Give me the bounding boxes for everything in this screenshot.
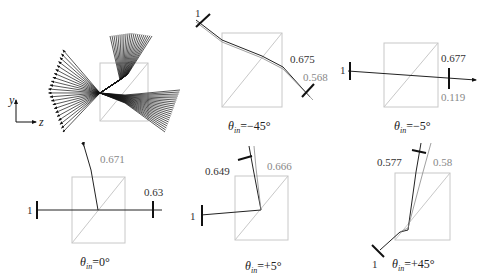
output-intensity-b: 0.119 <box>441 91 466 103</box>
panel-theta-plus-5: 1 0.649 0.666 θin=+5° <box>190 146 292 275</box>
diagram-canvas: y z 1 0.675 0.568 θin=−45° 1 0.677 0.119… <box>0 0 479 275</box>
input-intensity: 1 <box>190 210 196 222</box>
panel-caption: θin=−5° <box>394 119 431 135</box>
output-intensity-a: 0.677 <box>441 52 466 64</box>
input-intensity: 1 <box>372 258 378 270</box>
panel-caption: θin=−45° <box>228 119 271 135</box>
panel-caption: θin=+45° <box>392 257 435 273</box>
output-intensity-a: 0.577 <box>377 156 402 168</box>
panel-caption: θin=+5° <box>245 259 282 275</box>
overview-panel: y z <box>8 33 180 132</box>
z-axis-label: z <box>38 115 44 129</box>
panel-theta-minus-45: 1 0.675 0.568 θin=−45° <box>195 7 328 135</box>
y-axis-label: y <box>8 93 15 107</box>
panel-theta-minus-5: 1 0.677 0.119 θin=−5° <box>340 43 476 135</box>
output-intensity-b: 0.568 <box>303 71 328 83</box>
axes-icon: y z <box>8 93 44 129</box>
input-intensity: 1 <box>340 64 346 76</box>
input-intensity: 1 <box>27 204 33 216</box>
output-intensity-a: 0.649 <box>205 165 230 177</box>
output-intensity-b: 0.58 <box>433 156 453 168</box>
output-intensity-a: 0.675 <box>290 53 315 65</box>
output-intensity-a: 0.63 <box>144 186 164 198</box>
ray-fan <box>49 33 180 132</box>
panel-theta-plus-45: 1 0.577 0.58 θin=+45° <box>372 143 453 273</box>
input-intensity: 1 <box>195 7 201 19</box>
panel-caption: θin=0° <box>80 255 110 271</box>
panel-theta-0: 1 0.63 0.671 θin=0° <box>27 146 164 271</box>
output-intensity-b: 0.671 <box>100 153 125 165</box>
output-intensity-b: 0.666 <box>267 160 292 172</box>
